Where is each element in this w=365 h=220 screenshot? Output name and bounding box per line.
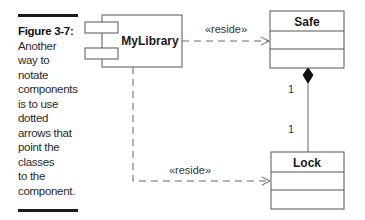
component-mylibrary: MyLibrary xyxy=(85,15,182,67)
filled-diamond-icon xyxy=(303,68,313,83)
class-name: Lock xyxy=(293,156,321,170)
stereotype-label: «reside» xyxy=(205,23,247,35)
dependency-arrow-safe: «reside» xyxy=(182,23,269,45)
multiplicity-part: 1 xyxy=(288,123,294,135)
multiplicity-whole: 1 xyxy=(288,83,294,95)
uml-diagram: MyLibrary Safe Lock «reside» «reside» 1 … xyxy=(0,0,365,220)
class-safe: Safe xyxy=(270,11,344,68)
component-port-icon xyxy=(85,48,118,59)
dependency-arrow-lock: «reside» xyxy=(133,67,270,185)
class-lock: Lock xyxy=(271,152,344,209)
component-name: MyLibrary xyxy=(121,34,179,48)
component-port-icon xyxy=(85,22,118,33)
composition-association: 1 1 xyxy=(288,68,313,152)
stereotype-label: «reside» xyxy=(169,164,211,176)
class-name: Safe xyxy=(294,15,320,29)
